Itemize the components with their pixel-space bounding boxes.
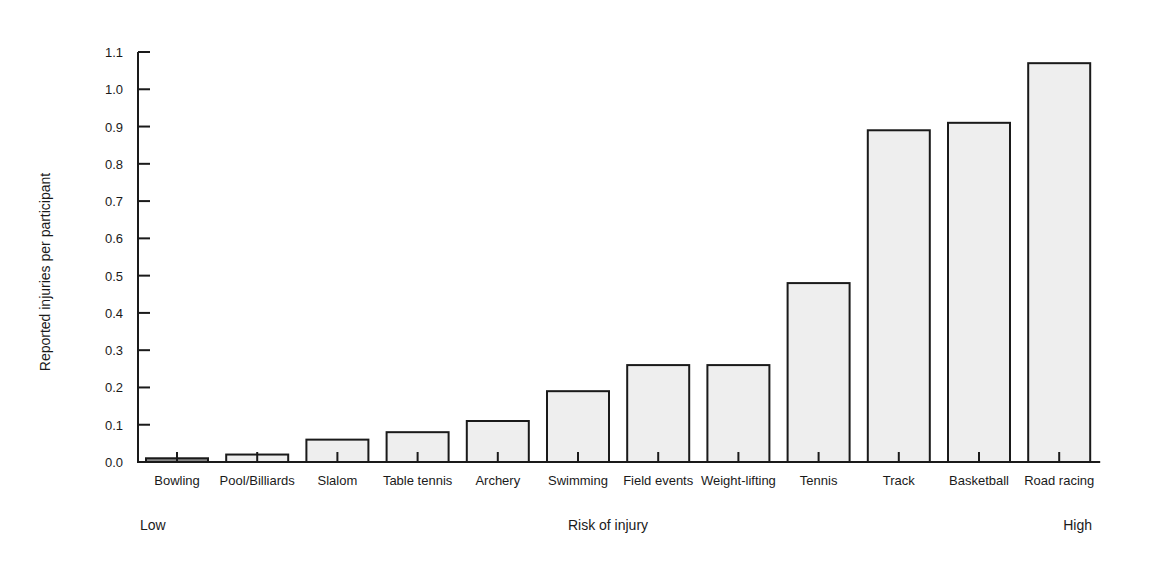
x-category-label: Slalom: [318, 473, 358, 488]
bar-road-racing: [1028, 63, 1090, 462]
y-tick-label: 0.4: [105, 306, 123, 321]
y-tick-label: 1.1: [105, 45, 123, 60]
x-category-label: Basketball: [949, 473, 1009, 488]
x-category-label: Bowling: [154, 473, 200, 488]
x-category-label: Road racing: [1024, 473, 1094, 488]
x-category-label: Pool/Billiards: [220, 473, 296, 488]
x-axis-title: Risk of injury: [568, 517, 648, 533]
x-scale-high-label: High: [1063, 517, 1092, 533]
bars: [146, 63, 1090, 462]
y-axis: 0.00.10.20.30.40.50.60.70.80.91.01.1: [105, 45, 150, 470]
bar-basketball: [948, 123, 1010, 462]
y-tick-label: 0.6: [105, 231, 123, 246]
y-tick-label: 0.3: [105, 343, 123, 358]
x-scale-low-label: Low: [140, 517, 167, 533]
bar-field-events: [627, 365, 689, 462]
y-axis-title: Reported injuries per participant: [37, 173, 53, 372]
y-tick-label: 0.0: [105, 455, 123, 470]
bar-swimming: [547, 391, 609, 462]
x-category-label: Field events: [623, 473, 694, 488]
x-category-label: Archery: [475, 473, 520, 488]
bar-weight-lifting: [707, 365, 769, 462]
x-category-label: Track: [883, 473, 916, 488]
x-category-label: Table tennis: [383, 473, 453, 488]
y-tick-label: 0.5: [105, 269, 123, 284]
y-tick-label: 0.8: [105, 157, 123, 172]
x-category-label: Swimming: [548, 473, 608, 488]
y-tick-label: 0.1: [105, 418, 123, 433]
y-tick-label: 0.7: [105, 194, 123, 209]
bar-track: [868, 130, 930, 462]
x-category-label: Weight-lifting: [701, 473, 776, 488]
y-tick-label: 0.9: [105, 120, 123, 135]
y-tick-label: 0.2: [105, 380, 123, 395]
bar-chart: 0.00.10.20.30.40.50.60.70.80.91.01.1 Bow…: [0, 0, 1149, 572]
bar-tennis: [788, 283, 850, 462]
y-tick-label: 1.0: [105, 82, 123, 97]
x-category-label: Tennis: [800, 473, 838, 488]
